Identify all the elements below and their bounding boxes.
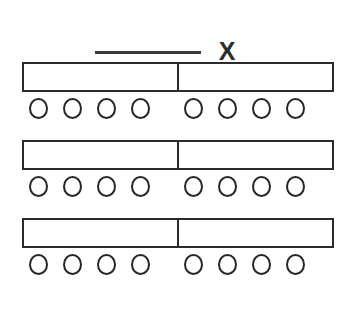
bar-model: [22, 62, 334, 92]
counter-group-right: [184, 176, 305, 197]
counter-circle-icon: [63, 98, 82, 119]
counter-circle-icon: [97, 176, 116, 197]
counter-circle-icon: [286, 176, 305, 197]
bar-divider-line: [177, 64, 179, 90]
legend: X: [0, 18, 352, 52]
bar-segment-left: [24, 64, 177, 90]
counter-circle-icon: [252, 176, 271, 197]
bar-segment-left: [24, 142, 177, 168]
counter-group-left: [29, 254, 150, 275]
counter-circle-icon: [252, 98, 271, 119]
counter-circle-icon: [286, 98, 305, 119]
diagram-canvas: X: [0, 0, 352, 310]
diagram-row: [0, 218, 352, 278]
counter-group-right: [184, 98, 305, 119]
counter-circle-icon: [131, 254, 150, 275]
counter-group-left: [29, 98, 150, 119]
counter-row: [0, 98, 352, 122]
counter-circle-icon: [97, 98, 116, 119]
counter-circle-icon: [97, 254, 116, 275]
counter-row: [0, 254, 352, 278]
bar-segment-right: [177, 142, 331, 168]
legend-line-icon: [95, 51, 201, 54]
counter-circle-icon: [184, 98, 203, 119]
bar-segment-right: [177, 64, 331, 90]
counter-circle-icon: [29, 254, 48, 275]
counter-circle-icon: [63, 176, 82, 197]
diagram-row: [0, 62, 352, 122]
counter-circle-icon: [184, 176, 203, 197]
counter-circle-icon: [29, 98, 48, 119]
bar-model: [22, 218, 334, 248]
counter-circle-icon: [218, 98, 237, 119]
counter-circle-icon: [252, 254, 271, 275]
counter-circle-icon: [131, 176, 150, 197]
counter-circle-icon: [63, 254, 82, 275]
counter-circle-icon: [218, 176, 237, 197]
counter-group-left: [29, 176, 150, 197]
counter-circle-icon: [286, 254, 305, 275]
bar-model: [22, 140, 334, 170]
counter-circle-icon: [131, 98, 150, 119]
counter-circle-icon: [29, 176, 48, 197]
counter-circle-icon: [218, 254, 237, 275]
bar-divider-line: [177, 220, 179, 246]
counter-row: [0, 176, 352, 200]
counter-circle-icon: [184, 254, 203, 275]
bar-divider-line: [177, 142, 179, 168]
counter-group-right: [184, 254, 305, 275]
diagram-row: [0, 140, 352, 200]
bar-segment-right: [177, 220, 331, 246]
bar-segment-left: [24, 220, 177, 246]
